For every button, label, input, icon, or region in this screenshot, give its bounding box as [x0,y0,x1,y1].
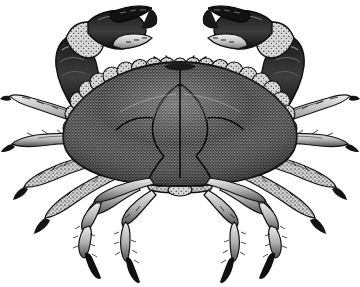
carapace-group [63,58,297,187]
crab-engraving-svg [0,0,360,287]
crab-illustration [0,0,360,287]
